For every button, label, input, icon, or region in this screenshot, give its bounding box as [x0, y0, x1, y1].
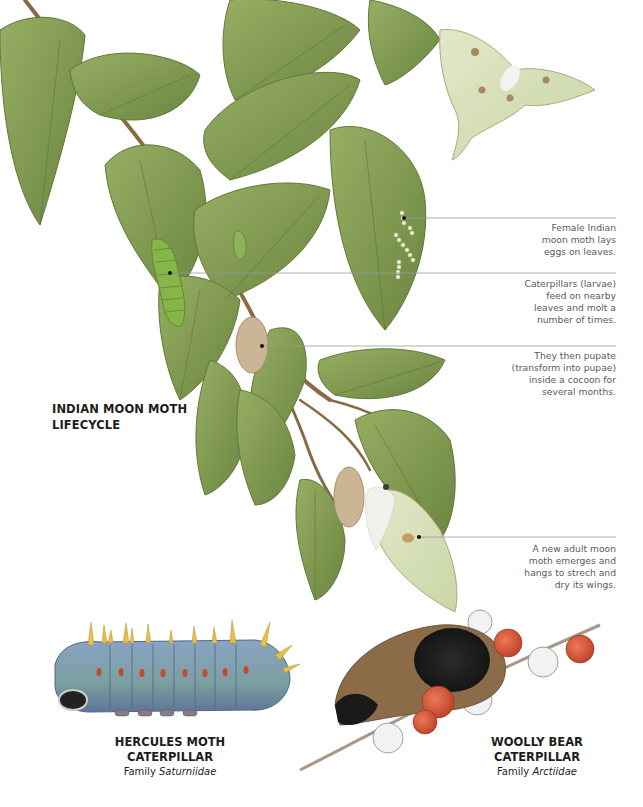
- species-family: Family Saturniidae: [80, 765, 260, 778]
- caption-pupae: They then pupate (transform into pupae) …: [506, 350, 616, 398]
- caption-line: dry its wings.: [506, 579, 616, 591]
- caption-line: moon moth lays: [506, 234, 616, 246]
- caption-line: several months.: [506, 386, 616, 398]
- species-name: HERCULES MOTH CATERPILLAR: [80, 735, 260, 765]
- caption-line: A new adult moon: [506, 543, 616, 555]
- caption-line: eggs on leaves.: [506, 246, 616, 258]
- caption-larvae: Caterpillars (larvae) feed on nearby lea…: [506, 278, 616, 326]
- caption-line: (transform into pupae): [506, 362, 616, 374]
- diagram-title: INDIAN MOON MOTH LIFECYCLE: [52, 401, 187, 433]
- species-name: WOOLLY BEAR CATERPILLAR: [452, 735, 622, 765]
- family-name: Saturniidae: [159, 766, 216, 777]
- caption-line: moth emerges and: [506, 555, 616, 567]
- caption-adult: A new adult moon moth emerges and hangs …: [506, 543, 616, 591]
- caption-line: They then pupate: [506, 350, 616, 362]
- adult-moth-flying: [440, 29, 595, 160]
- caption-line: feed on nearby: [506, 290, 616, 302]
- hercules-caterpillar-illustration: [55, 620, 300, 716]
- caption-line: Female Indian: [506, 222, 616, 234]
- caption-line: leaves and molt a: [506, 302, 616, 314]
- family-prefix: Family: [124, 766, 159, 777]
- family-prefix: Family: [497, 766, 532, 777]
- title-line: INDIAN MOON MOTH: [52, 401, 187, 417]
- woolly-bear-label: WOOLLY BEAR CATERPILLAR Family Arctiidae: [452, 735, 622, 778]
- caption-line: hangs to strech and: [506, 567, 616, 579]
- hercules-label: HERCULES MOTH CATERPILLAR Family Saturni…: [80, 735, 260, 778]
- caption-line: Caterpillars (larvae): [506, 278, 616, 290]
- caption-eggs: Female Indian moon moth lays eggs on lea…: [506, 222, 616, 258]
- title-line: LIFECYCLE: [52, 417, 187, 433]
- caption-line: number of times.: [506, 314, 616, 326]
- caption-line: inside a cocoon for: [506, 374, 616, 386]
- species-family: Family Arctiidae: [452, 765, 622, 778]
- family-name: Arctiidae: [532, 766, 577, 777]
